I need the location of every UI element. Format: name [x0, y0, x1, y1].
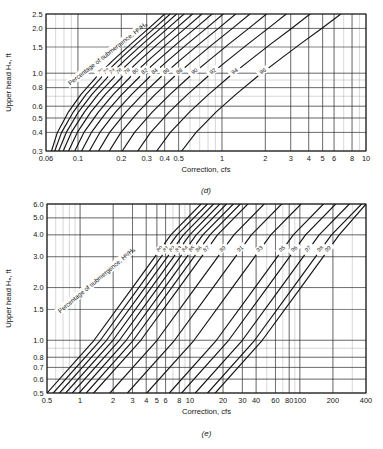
x-tick-label: 6 — [164, 396, 168, 405]
x-tick-label: 3 — [130, 396, 134, 405]
x-tick-label: 0.4 — [160, 154, 170, 163]
curve-76 — [63, 14, 184, 151]
x-tick-label: 20 — [219, 396, 227, 405]
plot-frame — [46, 14, 366, 151]
y-tick-label: 0.6 — [33, 375, 43, 384]
y-tick-label: 0.4 — [32, 128, 42, 137]
curve-94 — [157, 14, 310, 151]
x-tick-label: 0.5 — [173, 154, 183, 163]
chart-caption: (e) — [202, 429, 212, 438]
x-tick-label: 40 — [252, 396, 260, 405]
x-tick-label: 200 — [327, 396, 339, 405]
y-axis-title: Upper head Hₐ, ft — [4, 268, 13, 327]
x-tick-label: 8 — [350, 154, 354, 163]
x-tick-label: 10 — [362, 154, 370, 163]
y-tick-label: 4.0 — [33, 230, 43, 239]
y-axis-title: Upper head Hₐ, ft — [4, 52, 13, 111]
curve-86 — [86, 204, 240, 393]
x-tick-label: 1 — [220, 154, 224, 163]
y-tick-label: 0.6 — [32, 102, 42, 111]
x-tick-label: 100 — [294, 396, 306, 405]
y-tick-label: 2.5 — [32, 10, 42, 19]
chart-d-canvas: 7072747678808284868890929496Percentage o… — [0, 0, 383, 200]
y-tick-label: 2.0 — [33, 283, 43, 292]
curve-83 — [66, 204, 220, 393]
x-tick-label: 4 — [144, 396, 148, 405]
x-tick-label: 1 — [78, 396, 82, 405]
x-tick-label: 2 — [111, 396, 115, 405]
curve-85 — [79, 204, 233, 393]
x-tick-label: 5 — [321, 154, 325, 163]
y-tick-label: 2.0 — [32, 24, 42, 33]
x-tick-label: 0.3 — [142, 154, 152, 163]
curves — [47, 204, 366, 393]
x-tick-label: 0.2 — [116, 154, 126, 163]
major-gridlines — [46, 14, 366, 151]
x-tick-label: 8 — [177, 396, 181, 405]
curve-96 — [182, 14, 341, 151]
curve-labels: 80818283848586878991939596979899 — [153, 242, 336, 255]
submergence-annotation: Percentage of submergence, Hᵇ/Hₐ — [55, 245, 138, 316]
minor-gridlines — [46, 14, 366, 151]
x-tick-label: 4 — [307, 154, 311, 163]
figure-container: 7072747678808284868890929496Percentage o… — [0, 0, 383, 449]
x-axis-title: Correction, cfs — [182, 165, 231, 174]
x-axis-title: Correction, cfs — [182, 407, 231, 416]
y-tick-label: 5.0 — [33, 213, 43, 222]
curve-labels: 7072747678808284868890929496 — [94, 65, 271, 78]
curve-82 — [60, 204, 214, 393]
curve-93 — [147, 204, 301, 393]
y-tick-label: 0.5 — [33, 389, 43, 398]
y-tick-label: 0.8 — [33, 353, 43, 362]
y-tick-label: 0.5 — [32, 114, 42, 123]
svg-text:Percentage of submergence, Hᵇ/: Percentage of submergence, Hᵇ/Hₐ — [56, 245, 137, 315]
x-tick-label: 60 — [271, 396, 279, 405]
x-tick-label: 0.1 — [73, 154, 83, 163]
y-tick-label: 3.0 — [33, 252, 43, 261]
x-tick-label: 6 — [332, 154, 336, 163]
y-tick-label: 1.5 — [33, 305, 43, 314]
curve-84 — [72, 204, 226, 393]
x-tick-label: 30 — [238, 396, 246, 405]
x-tick-label: 10 — [186, 396, 194, 405]
y-tick-label: 0.8 — [32, 83, 42, 92]
x-tick-label: 5 — [155, 396, 159, 405]
chart-e-canvas: 80818283848586878991939596979899Percenta… — [0, 196, 383, 446]
y-tick-label: 0.3 — [32, 147, 42, 156]
curves — [51, 14, 340, 151]
x-tick-label: 80 — [285, 396, 293, 405]
y-tick-label: 1.5 — [32, 43, 42, 52]
y-tick-label: 0.7 — [33, 363, 43, 372]
chart-caption: (d) — [201, 186, 211, 195]
x-tick-label: 2 — [263, 154, 267, 163]
x-tick-label: 3 — [289, 154, 293, 163]
x-tick-label: 400 — [360, 396, 372, 405]
curve-86 — [99, 14, 236, 151]
y-tick-label: 6.0 — [33, 200, 43, 209]
curve-98 — [208, 204, 362, 393]
curve-99 — [215, 204, 366, 393]
curve-97 — [195, 204, 349, 393]
y-tick-label: 1.0 — [33, 336, 43, 345]
y-tick-label: 1.0 — [32, 69, 42, 78]
